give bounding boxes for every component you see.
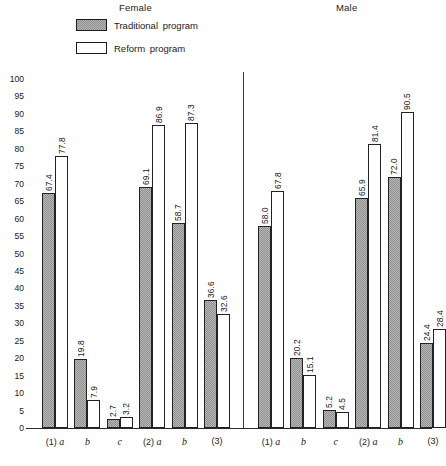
bar-value-label: 67.4 bbox=[43, 174, 53, 191]
bar-slot: 86.9 bbox=[152, 0, 165, 429]
bar-value-label: 4.5 bbox=[337, 398, 347, 410]
bar-value-label: 28.4 bbox=[434, 310, 444, 327]
bar-value-label: 3.2 bbox=[121, 403, 131, 415]
bar-male-reform-5: 28.4 bbox=[433, 329, 446, 428]
bar-male-traditional-0: 58.0 bbox=[258, 226, 271, 428]
bar-value-label: 67.8 bbox=[272, 173, 282, 190]
x-axis-label-male-4: b bbox=[398, 436, 403, 447]
x-axis-label-male-0: (1) a bbox=[262, 436, 281, 447]
bar-slot: 65.9 bbox=[355, 0, 368, 429]
bar-female-reform-1: 7.9 bbox=[87, 400, 100, 428]
bar-male-reform-1: 15.1 bbox=[303, 375, 316, 428]
bar-female-traditional-2: 2.7 bbox=[107, 419, 120, 428]
bar-male-traditional-2: 5.2 bbox=[323, 410, 336, 428]
bar-slot: 67.8 bbox=[271, 0, 284, 429]
x-axis-label-female-4: b bbox=[182, 436, 187, 447]
bar-female-traditional-1: 19.8 bbox=[74, 359, 87, 428]
bar-value-label: 15.1 bbox=[304, 357, 314, 374]
bar-slot: 81.4 bbox=[368, 0, 381, 429]
bar-female-traditional-5: 36.6 bbox=[204, 300, 217, 428]
bar-slot: 3.2 bbox=[120, 0, 133, 429]
bar-male-reform-2: 4.5 bbox=[336, 412, 349, 428]
bar-female-reform-4: 87.3 bbox=[185, 123, 198, 428]
panel-divider bbox=[243, 72, 244, 429]
bar-slot: 32.6 bbox=[217, 0, 230, 429]
bar-female-reform-5: 32.6 bbox=[217, 314, 230, 428]
bar-slot: 67.4 bbox=[42, 0, 55, 429]
bar-slot: 20.2 bbox=[290, 0, 303, 429]
bar-slot: 72.0 bbox=[388, 0, 401, 429]
bar-slot: 19.8 bbox=[74, 0, 87, 429]
bar-slot: 4.5 bbox=[336, 0, 349, 429]
bar-male-reform-3: 81.4 bbox=[368, 144, 381, 428]
bar-slot: 36.6 bbox=[204, 0, 217, 429]
bar-value-label: 24.4 bbox=[421, 324, 431, 341]
bar-value-label: 87.3 bbox=[186, 105, 196, 122]
bar-male-traditional-3: 65.9 bbox=[355, 198, 368, 428]
bar-slot: 77.8 bbox=[55, 0, 68, 429]
bar-slot: 2.7 bbox=[107, 0, 120, 429]
bar-slot: 28.4 bbox=[433, 0, 446, 429]
bar-value-label: 58.0 bbox=[259, 207, 269, 224]
bars-layer: 67.477.819.87.92.73.269.186.958.787.336.… bbox=[0, 0, 436, 429]
bar-female-traditional-3: 69.1 bbox=[139, 187, 152, 428]
bar-value-label: 32.6 bbox=[218, 296, 228, 313]
bar-male-reform-0: 67.8 bbox=[271, 191, 284, 428]
bar-value-label: 19.8 bbox=[75, 340, 85, 357]
bar-value-label: 81.4 bbox=[369, 125, 379, 142]
x-axis-label-male-1: b bbox=[301, 436, 306, 447]
bar-female-reform-0: 77.8 bbox=[55, 156, 68, 428]
bar-slot: 58.7 bbox=[172, 0, 185, 429]
bar-female-reform-2: 3.2 bbox=[120, 417, 133, 428]
bar-value-label: 69.1 bbox=[140, 168, 150, 185]
x-axis-label-female-2: c bbox=[118, 436, 122, 447]
bar-slot: 5.2 bbox=[323, 0, 336, 429]
bar-value-label: 77.8 bbox=[56, 138, 66, 155]
bar-slot: 58.0 bbox=[258, 0, 271, 429]
x-axis-label-male-2: c bbox=[334, 436, 338, 447]
bar-male-reform-4: 90.5 bbox=[401, 112, 414, 428]
bar-slot: 90.5 bbox=[401, 0, 414, 429]
bar-value-label: 65.9 bbox=[356, 179, 366, 196]
bar-value-label: 7.9 bbox=[88, 386, 98, 398]
bar-value-label: 5.2 bbox=[324, 396, 334, 408]
bar-male-traditional-4: 72.0 bbox=[388, 177, 401, 428]
bar-value-label: 86.9 bbox=[153, 106, 163, 123]
x-axis-label-female-0: (1) a bbox=[46, 436, 65, 447]
bar-slot: 24.4 bbox=[420, 0, 433, 429]
bar-slot: 7.9 bbox=[87, 0, 100, 429]
bar-value-label: 72.0 bbox=[389, 158, 399, 175]
bar-value-label: 58.7 bbox=[173, 204, 183, 221]
bar-value-label: 20.2 bbox=[291, 339, 301, 356]
bar-slot: 15.1 bbox=[303, 0, 316, 429]
x-axis-label-male-5: (3) bbox=[428, 436, 439, 446]
bar-slot: 87.3 bbox=[185, 0, 198, 429]
bar-slot: 69.1 bbox=[139, 0, 152, 429]
x-axis-label-female-3: (2) a bbox=[143, 436, 162, 447]
bar-female-traditional-4: 58.7 bbox=[172, 223, 185, 428]
x-axis-label-male-3: (2) a bbox=[359, 436, 378, 447]
bar-value-label: 90.5 bbox=[402, 93, 412, 110]
x-axis-label-female-1: b bbox=[85, 436, 90, 447]
bar-female-traditional-0: 67.4 bbox=[42, 193, 55, 428]
bar-male-traditional-1: 20.2 bbox=[290, 358, 303, 428]
x-axis-label-female-5: (3) bbox=[212, 436, 223, 446]
bar-value-label: 2.7 bbox=[108, 405, 118, 417]
bar-value-label: 36.6 bbox=[205, 282, 215, 299]
bar-male-traditional-5: 24.4 bbox=[420, 343, 433, 428]
bar-female-reform-3: 86.9 bbox=[152, 125, 165, 428]
x-axis-baseline bbox=[26, 428, 432, 429]
